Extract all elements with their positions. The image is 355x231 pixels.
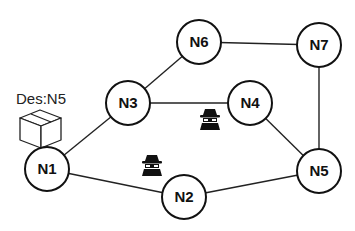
svg-text:N5: N5 bbox=[309, 162, 328, 179]
network-diagram: Des:N5 N1 N2 N3 N4 N5 N6 bbox=[0, 0, 355, 231]
svg-text:N6: N6 bbox=[189, 33, 208, 50]
svg-text:N1: N1 bbox=[37, 160, 56, 177]
node-n6: N6 bbox=[177, 20, 221, 64]
svg-text:N3: N3 bbox=[118, 94, 137, 111]
svg-text:N4: N4 bbox=[240, 94, 260, 111]
svg-text:N7: N7 bbox=[309, 36, 328, 53]
node-n2: N2 bbox=[162, 175, 206, 219]
node-n3: N3 bbox=[106, 81, 150, 125]
node-n4: N4 bbox=[228, 81, 272, 125]
svg-text:N2: N2 bbox=[174, 188, 193, 205]
spy-icon bbox=[142, 155, 162, 176]
destination-label: Des:N5 bbox=[16, 90, 66, 107]
edges bbox=[47, 42, 319, 197]
package-box-icon bbox=[20, 110, 61, 148]
node-n7: N7 bbox=[297, 23, 341, 67]
node-n5: N5 bbox=[297, 149, 341, 193]
node-n1: N1 bbox=[25, 147, 69, 191]
spy-icon bbox=[200, 109, 220, 130]
